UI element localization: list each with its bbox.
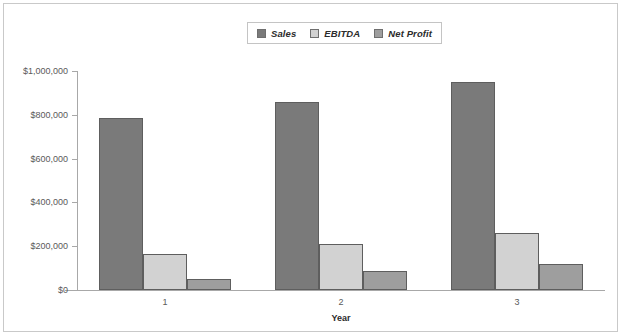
legend-entry-sales[interactable]: Sales bbox=[257, 28, 296, 39]
bar-sales-year-2[interactable] bbox=[275, 102, 319, 290]
plot-area: $0$200,000$400,000$600,000$800,000$1,000… bbox=[77, 71, 605, 290]
y-axis-tick bbox=[72, 246, 77, 247]
chart-frame: SalesEBITDANet Profit $0$200,000$400,000… bbox=[3, 3, 618, 332]
y-axis-tick bbox=[72, 115, 77, 116]
x-axis-tick-label-2: 2 bbox=[338, 297, 343, 307]
bar-net-profit-year-1[interactable] bbox=[187, 279, 231, 290]
bar-ebitda-year-1[interactable] bbox=[143, 254, 187, 290]
y-axis-tick-label: $800,000 bbox=[30, 110, 68, 120]
x-axis-line bbox=[65, 290, 605, 291]
legend-swatch-sales bbox=[257, 29, 266, 38]
legend-entry-net-profit[interactable]: Net Profit bbox=[374, 28, 432, 39]
legend-label: Sales bbox=[271, 28, 296, 39]
legend-swatch-ebitda bbox=[310, 29, 319, 38]
bar-sales-year-1[interactable] bbox=[99, 118, 143, 290]
y-axis-tick-label: $1,000,000 bbox=[23, 66, 68, 76]
x-axis-title: Year bbox=[331, 313, 350, 323]
bar-group-year-3 bbox=[451, 71, 583, 290]
y-axis-tick-label: $200,000 bbox=[30, 241, 68, 251]
y-axis-tick bbox=[72, 159, 77, 160]
legend-swatch-net-profit bbox=[374, 29, 383, 38]
y-axis-tick bbox=[72, 71, 77, 72]
bar-group-year-1 bbox=[99, 71, 231, 290]
y-axis-tick-label: $600,000 bbox=[30, 154, 68, 164]
bar-ebitda-year-3[interactable] bbox=[495, 233, 539, 290]
y-axis-tick-label: $400,000 bbox=[30, 197, 68, 207]
bar-ebitda-year-2[interactable] bbox=[319, 244, 363, 290]
bar-group-year-2 bbox=[275, 71, 407, 290]
x-axis-tick-label-3: 3 bbox=[514, 297, 519, 307]
y-axis-tick-label: $0 bbox=[58, 285, 68, 295]
y-axis-tick bbox=[72, 290, 77, 291]
legend-label: EBITDA bbox=[324, 28, 360, 39]
y-axis-line bbox=[77, 71, 78, 291]
legend-entry-ebitda[interactable]: EBITDA bbox=[310, 28, 360, 39]
bar-net-profit-year-3[interactable] bbox=[539, 264, 583, 290]
bar-sales-year-3[interactable] bbox=[451, 82, 495, 290]
legend-label: Net Profit bbox=[388, 28, 432, 39]
bar-net-profit-year-2[interactable] bbox=[363, 271, 407, 290]
y-axis-tick bbox=[72, 202, 77, 203]
x-axis-tick-label-1: 1 bbox=[162, 297, 167, 307]
chart-legend: SalesEBITDANet Profit bbox=[247, 22, 442, 44]
